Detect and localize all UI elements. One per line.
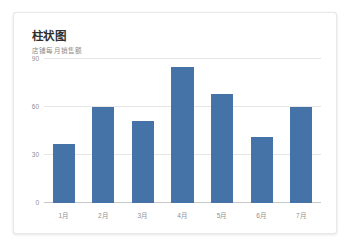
bar-slot: 2月 [84,59,124,203]
y-axis-tick-label: 90 [32,55,39,62]
bar[interactable] [171,67,193,203]
bar-series: 1月2月3月4月5月6月7月 [44,59,321,203]
bar[interactable] [290,107,312,203]
y-axis-tick-label: 0 [35,199,39,206]
bar-slot: 1月 [44,59,84,203]
bar-slot: 3月 [123,59,163,203]
chart-subtitle: 店铺每月销售额 [32,45,82,55]
bar-slot: 6月 [242,59,282,203]
y-axis-tick-label: 60 [32,103,39,110]
bar-slot: 5月 [202,59,242,203]
x-axis-tick-label: 3月 [123,210,163,220]
page-title: 柱状图 [32,27,66,43]
bar-slot: 4月 [163,59,203,203]
bar[interactable] [92,107,114,203]
x-axis-tick-label: 4月 [163,210,203,220]
plot-area: 0306090 1月2月3月4月5月6月7月 [44,59,321,203]
x-axis-tick-label: 5月 [202,210,242,220]
bar[interactable] [132,121,154,203]
x-axis-tick-label: 6月 [242,210,282,220]
bar[interactable] [53,144,75,203]
bar[interactable] [211,94,233,203]
chart-card: 柱状图 店铺每月销售额 0306090 1月2月3月4月5月6月7月 [13,12,337,234]
x-axis-tick-label: 7月 [281,210,321,220]
bar[interactable] [251,137,273,203]
x-axis-tick-label: 1月 [44,210,84,220]
y-axis-tick-label: 30 [32,151,39,158]
bar-slot: 7月 [281,59,321,203]
x-axis-tick-label: 2月 [84,210,124,220]
